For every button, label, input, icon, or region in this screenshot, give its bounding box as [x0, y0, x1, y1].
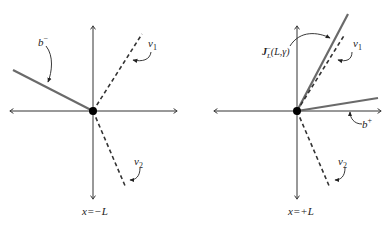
right-panel: J−L(L,γ) v1 b+ v2 x=+L [215, 14, 380, 217]
right-v1-label: v1 [353, 37, 362, 52]
left-origin-point [89, 107, 97, 115]
right-v2-label: v2 [338, 155, 347, 170]
right-b-plus-line [297, 98, 378, 111]
left-v1-label: v1 [148, 37, 157, 52]
right-b-plus-callout-arrow [350, 112, 362, 124]
left-b-minus-line [13, 70, 93, 111]
diagram-canvas: b− v1 v2 x=−L J−L(L,γ) v1 b+ [0, 0, 391, 225]
right-b-plus-label: b+ [362, 116, 373, 130]
left-b-callout-arrow [46, 46, 52, 82]
right-J-label: J−L(L,γ) [261, 45, 290, 60]
right-v1-callout-arrow [338, 52, 352, 61]
right-J-callout-arrow [290, 34, 330, 46]
left-caption: x=−L [81, 205, 108, 217]
right-v2-dashed-line [297, 111, 330, 188]
left-v2-label: v2 [134, 155, 143, 170]
left-v2-dashed-line [93, 111, 126, 188]
left-v1-callout-arrow [133, 52, 151, 61]
right-caption: x=+L [287, 205, 314, 217]
left-b-minus-label: b− [38, 34, 49, 48]
right-J-line [297, 14, 348, 111]
left-v1-dashed-line [93, 34, 142, 111]
left-panel: b− v1 v2 x=−L [11, 27, 176, 217]
right-origin-point [293, 107, 301, 115]
